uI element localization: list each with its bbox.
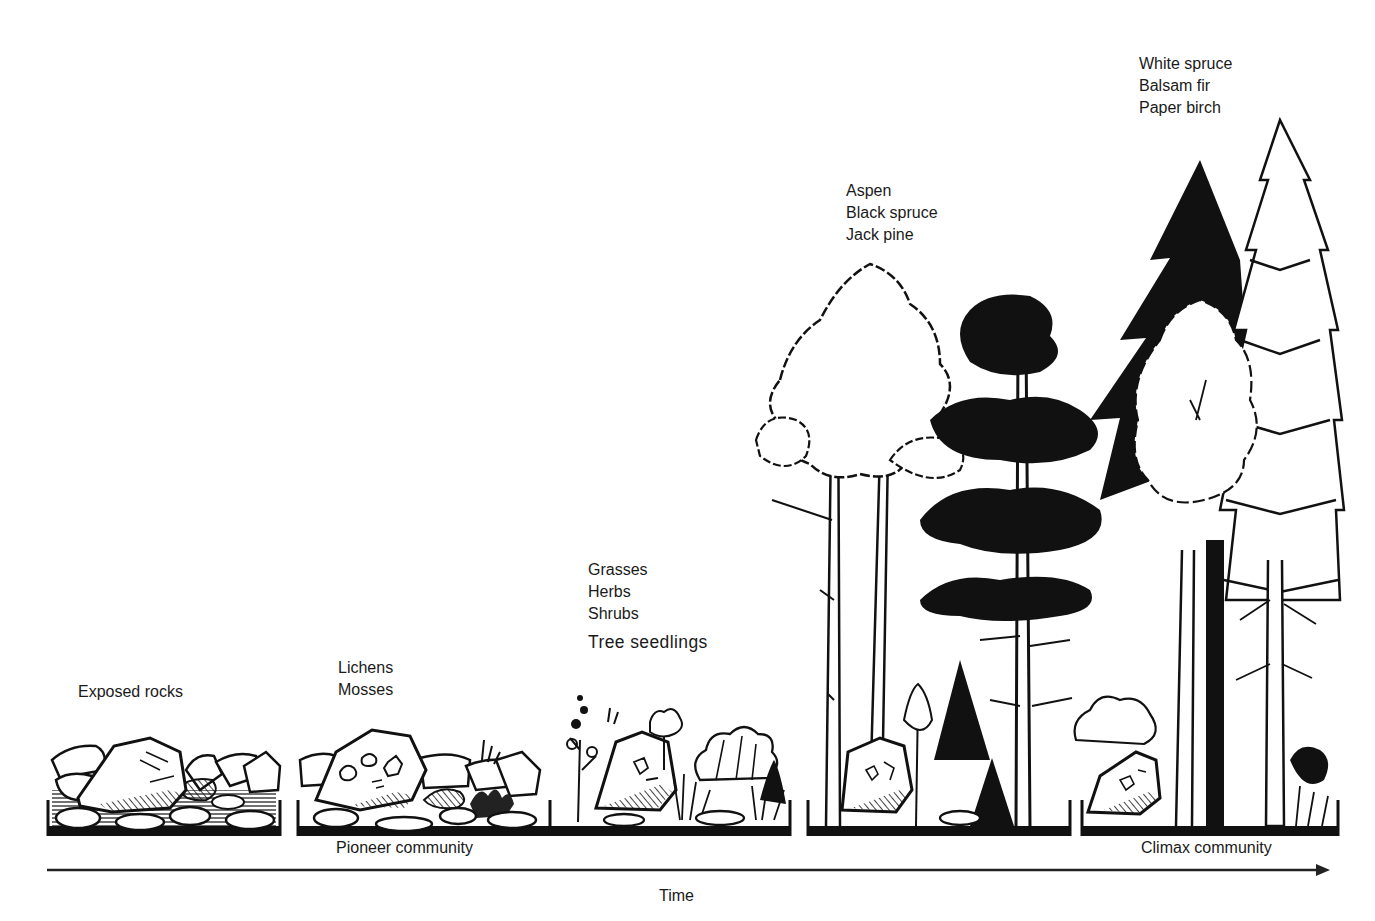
species-label: Paper birch — [1139, 97, 1232, 119]
panel-climax-forest — [1075, 120, 1344, 836]
species-label: Herbs — [588, 581, 708, 603]
species-label: Jack pine — [846, 224, 938, 246]
species-label: Lichens — [338, 657, 393, 679]
stage-label-exposed-rocks: Exposed rocks — [78, 681, 183, 703]
time-axis-arrow — [47, 864, 1330, 876]
species-label: Balsam fir — [1139, 75, 1232, 97]
species-label: Exposed rocks — [78, 681, 183, 703]
panel-exposed-rocks — [48, 738, 280, 836]
stage-label-aspen-pine: Aspen Black spruce Jack pine — [846, 180, 938, 246]
species-label: Grasses — [588, 559, 708, 581]
stage-label-grasses-shrubs: Grasses Herbs Shrubs Tree seedlings — [588, 559, 708, 653]
species-label: Black spruce — [846, 202, 938, 224]
pioneer-community-caption: Pioneer community — [336, 839, 473, 857]
climax-community-caption: Climax community — [1141, 839, 1272, 857]
stage-label-climax-species: White spruce Balsam fir Paper birch — [1139, 53, 1232, 119]
time-axis-label: Time — [659, 887, 694, 905]
stage-label-lichens-mosses: Lichens Mosses — [338, 657, 393, 701]
succession-illustration — [0, 0, 1375, 921]
species-label: Tree seedlings — [588, 631, 708, 653]
species-label: Mosses — [338, 679, 393, 701]
species-label: Aspen — [846, 180, 938, 202]
species-label: Shrubs — [588, 603, 708, 625]
panel-aspen-pine — [756, 264, 1102, 836]
species-label: White spruce — [1139, 53, 1232, 75]
panel-lichens-mosses — [298, 730, 550, 836]
panel-grasses-shrubs — [550, 695, 790, 836]
